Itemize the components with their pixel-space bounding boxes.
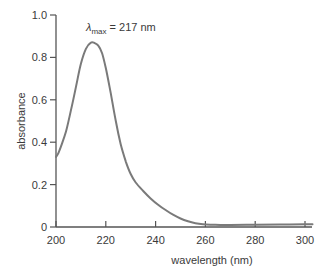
x-axis-title: wavelength (nm) [170, 254, 252, 266]
lambda-max-value: = 217 nm [107, 21, 156, 33]
y-tick-label: 0.8 [32, 51, 47, 63]
axes: 00.20.40.60.81.0 200220240260280300 [32, 9, 314, 246]
x-tick-label: 260 [196, 234, 214, 246]
max-subscript: max [91, 27, 106, 36]
absorbance-spectrum-chart: 00.20.40.60.81.0 200220240260280300 abso… [0, 0, 332, 274]
x-tick-label: 200 [47, 234, 65, 246]
x-tick-label: 220 [97, 234, 115, 246]
lambda-max-annotation: λmax = 217 nm [85, 21, 156, 36]
y-axis-title: absorbance [15, 92, 27, 150]
x-tick-label: 300 [296, 234, 314, 246]
y-tick-label: 0 [41, 221, 47, 233]
x-tick-label: 240 [146, 234, 164, 246]
y-tick-label: 0.2 [32, 179, 47, 191]
y-tick-label: 0.4 [32, 136, 47, 148]
y-tick-label: 1.0 [32, 9, 47, 21]
y-ticks: 00.20.40.60.81.0 [32, 9, 56, 233]
y-tick-label: 0.6 [32, 94, 47, 106]
absorbance-curve [56, 42, 313, 225]
x-tick-label: 280 [246, 234, 264, 246]
